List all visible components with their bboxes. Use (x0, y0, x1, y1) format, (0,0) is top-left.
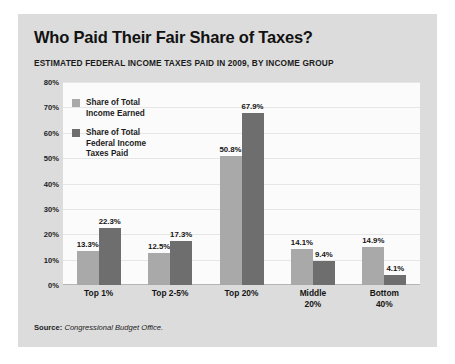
legend-item-label: Share of Total Income Earned (86, 98, 145, 119)
bar[interactable]: 17.3% (170, 241, 192, 285)
bar[interactable]: 13.3% (77, 251, 99, 285)
bar[interactable]: 14.9% (362, 247, 384, 285)
chart-subtitle: ESTIMATED FEDERAL INCOME TAXES PAID IN 2… (34, 58, 334, 68)
y-axis-tick-label: 80% (19, 78, 59, 87)
y-axis: 80%70%60%50%40%30%20%10%0% (18, 82, 59, 285)
y-axis-tick-label: 20% (19, 230, 59, 239)
y-axis-tick-label: 10% (19, 255, 59, 264)
bar-value-label: 13.3% (77, 240, 99, 249)
bar-value-label: 9.4% (315, 250, 333, 259)
source-label: Source: (34, 323, 62, 332)
bar[interactable]: 67.9% (242, 113, 264, 285)
bar-value-label: 50.8% (219, 145, 241, 154)
bar-value-label: 17.3% (170, 230, 192, 239)
legend-item-0: Share of Total Income Earned (72, 98, 202, 119)
y-axis-tick-label: 50% (19, 154, 59, 163)
y-axis-tick-label: 0% (19, 281, 59, 290)
source-value: Congressional Budget Office. (64, 323, 163, 332)
legend-item-label: Share of Total Federal Income Taxes Paid (86, 128, 146, 160)
legend-swatch-icon (72, 129, 80, 137)
bar-group: 14.1%9.4% (291, 82, 335, 285)
bar[interactable]: 22.3% (99, 228, 121, 285)
bar-value-label: 14.9% (362, 236, 384, 245)
source-note: Source: Congressional Budget Office. (34, 323, 163, 332)
page-title: Who Paid Their Fair Share of Taxes? (34, 28, 313, 47)
y-axis-tick-label: 30% (19, 204, 59, 213)
legend-item-1: Share of Total Federal Income Taxes Paid (72, 128, 202, 160)
bar-value-label: 67.9% (241, 102, 263, 111)
x-axis: Top 1%Top 2-5%Top 20%Middle 20%Bottom 40… (63, 288, 420, 318)
y-axis-tick-label: 40% (19, 179, 59, 188)
bar[interactable]: 4.1% (384, 275, 406, 285)
y-axis-tick-label: 70% (19, 103, 59, 112)
chart-legend: Share of Total Income EarnedShare of Tot… (72, 98, 202, 169)
bar-group: 50.8%67.9% (220, 82, 264, 285)
bar-value-label: 22.3% (99, 217, 121, 226)
x-axis-tick-label: Bottom 40% (349, 288, 419, 309)
bar-value-label: 12.5% (148, 242, 170, 251)
bar[interactable]: 14.1% (291, 249, 313, 285)
bar-value-label: 14.1% (291, 238, 313, 247)
chart-card: Who Paid Their Fair Share of Taxes? ESTI… (18, 14, 437, 347)
bar-value-label: 4.1% (386, 264, 404, 273)
bar-group: 14.9%4.1% (362, 82, 406, 285)
bar[interactable]: 9.4% (313, 261, 335, 285)
y-axis-tick-label: 60% (19, 128, 59, 137)
x-axis-tick-label: Top 2-5% (135, 288, 205, 299)
bar[interactable]: 50.8% (220, 156, 242, 285)
legend-swatch-icon (72, 99, 80, 107)
x-axis-tick-label: Middle 20% (278, 288, 348, 309)
x-axis-tick-label: Top 20% (207, 288, 277, 299)
x-axis-tick-label: Top 1% (64, 288, 134, 299)
bar[interactable]: 12.5% (148, 253, 170, 285)
